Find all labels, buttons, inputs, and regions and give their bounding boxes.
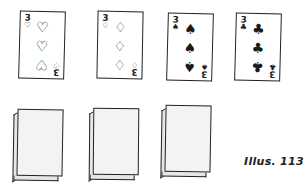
card-index-bottom: 3 ♡ bbox=[52, 60, 60, 76]
card-index-top: 3 ♢ bbox=[101, 14, 109, 30]
club-icon: ♣ bbox=[239, 24, 247, 32]
card-index-bottom: 3 ♣ bbox=[268, 62, 276, 78]
card-three-of-diamonds[interactable]: 3 ♢ ♢ ♢ ♢ 3 ♢ bbox=[96, 11, 143, 80]
card-index-bottom: 3 ♠ bbox=[200, 62, 208, 78]
face-down-stack-1[interactable] bbox=[12, 109, 63, 182]
diamond-icon: ♢ bbox=[131, 60, 139, 68]
stack-top-face bbox=[16, 109, 63, 177]
spade-icon: ♠ bbox=[184, 22, 197, 36]
card-index-top: 3 ♡ bbox=[23, 14, 31, 30]
face-down-stack-2[interactable] bbox=[89, 108, 140, 180]
stack-edge-bottom bbox=[90, 175, 135, 180]
diamond-icon: ♢ bbox=[101, 22, 109, 30]
heart-icon: ♡ bbox=[36, 39, 49, 53]
card-three-of-clubs[interactable]: 3 ♣ ♣ ♣ ♣ 3 ♣ bbox=[234, 12, 282, 81]
club-icon: ♣ bbox=[252, 41, 265, 55]
heart-icon: ♡ bbox=[52, 60, 60, 68]
heart-icon: ♡ bbox=[35, 58, 48, 72]
club-icon: ♣ bbox=[252, 22, 265, 36]
stack-top-face bbox=[164, 105, 211, 173]
card-three-of-hearts[interactable]: 3 ♡ ♡ ♡ ♡ 3 ♡ bbox=[18, 10, 66, 79]
spade-icon: ♠ bbox=[171, 24, 179, 32]
diamond-icon: ♢ bbox=[113, 58, 126, 72]
club-icon: ♣ bbox=[268, 62, 276, 70]
card-three-of-spades[interactable]: 3 ♠ ♠ ♠ ♠ 3 ♠ bbox=[166, 12, 214, 81]
card-index-bottom: 3 ♢ bbox=[130, 60, 138, 76]
diamond-icon: ♢ bbox=[114, 39, 127, 53]
stack-edge-bottom bbox=[13, 176, 58, 182]
spade-icon: ♠ bbox=[184, 41, 197, 55]
club-icon: ♣ bbox=[251, 60, 264, 74]
heart-icon: ♡ bbox=[23, 22, 31, 30]
stack-top-face bbox=[93, 108, 140, 175]
heart-icon: ♡ bbox=[36, 20, 49, 34]
spade-icon: ♠ bbox=[200, 62, 208, 70]
stack-edge-bottom bbox=[161, 172, 206, 178]
spade-icon: ♠ bbox=[183, 60, 196, 74]
face-down-stack-3[interactable] bbox=[160, 105, 211, 178]
card-index-top: 3 ♣ bbox=[239, 16, 247, 32]
card-index-top: 3 ♠ bbox=[171, 16, 179, 32]
diamond-icon: ♢ bbox=[114, 20, 127, 34]
illustration-caption: Illus. 113 bbox=[244, 155, 304, 168]
